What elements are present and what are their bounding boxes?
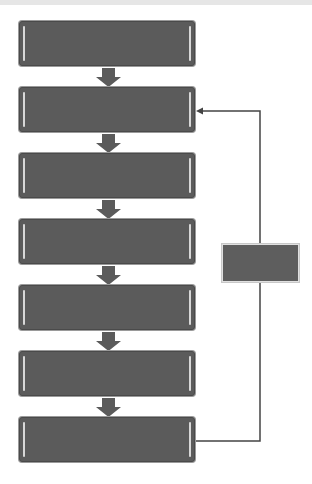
arrow-down-icon [96, 134, 121, 153]
arrow-down-icon [96, 332, 121, 351]
flow-step-5 [19, 285, 195, 330]
flow-step-6 [19, 351, 195, 396]
flow-step-3 [19, 153, 195, 198]
arrow-down-icon [96, 200, 121, 219]
flow-step-4 [19, 219, 195, 264]
feedback-box [222, 244, 299, 282]
arrow-left-icon [196, 108, 203, 115]
arrow-down-icon [96, 68, 121, 87]
flow-step-7 [19, 417, 195, 462]
arrow-down-icon [96, 266, 121, 285]
flow-step-1 [19, 21, 195, 66]
arrow-down-icon [96, 398, 121, 417]
flow-step-2 [19, 87, 195, 132]
